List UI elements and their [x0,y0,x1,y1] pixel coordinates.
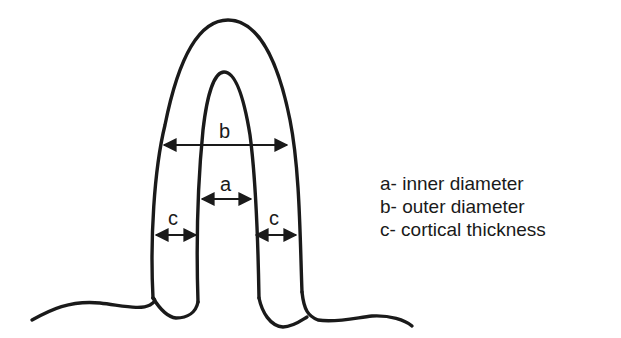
diagram-canvas: b a c c [0,0,621,338]
legend-item-b: b- outer diameter [380,195,546,218]
label-b: b [219,120,230,142]
legend: a- inner diameter b- outer diameter c- c… [380,172,546,241]
label-c-right: c [269,207,279,229]
base-left-root [153,298,198,318]
legend-item-a: a- inner diameter [380,172,546,195]
label-a: a [220,173,232,195]
base-right-contour [302,292,412,326]
base-right-root [259,298,307,327]
base-left-contour [32,298,155,320]
outer-wall-outline [152,20,302,298]
legend-item-c: c- cortical thickness [380,218,546,241]
label-c-left: c [168,207,178,229]
